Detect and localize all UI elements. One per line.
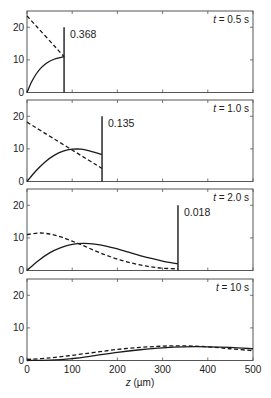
panel-4: 01020t = 10 s0100200300400500z (µm) — [13, 279, 262, 388]
y-tick-label: 0 — [18, 87, 24, 98]
time-label: t = 0.5 s — [213, 14, 249, 25]
x-tick-label: 300 — [154, 364, 171, 375]
solid-curve — [27, 57, 64, 93]
x-tick-label: 200 — [109, 364, 126, 375]
y-tick-label: 20 — [13, 111, 25, 122]
y-tick-label: 10 — [13, 232, 25, 243]
y-tick-label: 10 — [13, 322, 25, 333]
panel-3: 010200.018t = 2.0 s — [13, 189, 253, 276]
dashed-curve — [27, 122, 102, 168]
panel-2: 010200.135t = 1.0 s — [13, 100, 253, 187]
front-annotation: 0.135 — [108, 117, 134, 129]
solid-curve — [27, 149, 102, 182]
time-label: t = 2.0 s — [213, 192, 249, 203]
time-label: t = 10 s — [216, 282, 249, 293]
y-tick-label: 20 — [13, 22, 25, 33]
front-annotation: 0.018 — [184, 206, 210, 218]
x-axis-label: z (µm) — [125, 377, 155, 388]
dashed-curve — [27, 346, 253, 360]
figure: 010200.368t = 0.5 s010200.135t = 1.0 s01… — [0, 0, 271, 398]
x-tick-label: 500 — [245, 364, 262, 375]
dashed-curve — [27, 233, 178, 269]
y-tick-label: 20 — [13, 290, 25, 301]
solid-curve — [27, 243, 178, 270]
time-label: t = 1.0 s — [213, 103, 249, 114]
y-tick-label: 10 — [13, 143, 25, 154]
chart-canvas: 010200.368t = 0.5 s010200.135t = 1.0 s01… — [0, 0, 271, 398]
y-tick-label: 10 — [13, 54, 25, 65]
x-tick-label: 100 — [64, 364, 81, 375]
x-tick-label: 400 — [199, 364, 216, 375]
solid-curve — [27, 347, 253, 361]
y-tick-label: 20 — [13, 200, 25, 211]
y-tick-label: 0 — [18, 265, 24, 276]
x-tick-label: 0 — [24, 364, 30, 375]
dashed-curve — [27, 16, 64, 57]
y-tick-label: 0 — [18, 176, 24, 187]
front-annotation: 0.368 — [70, 28, 96, 40]
panel-1: 010200.368t = 0.5 s — [13, 11, 253, 98]
